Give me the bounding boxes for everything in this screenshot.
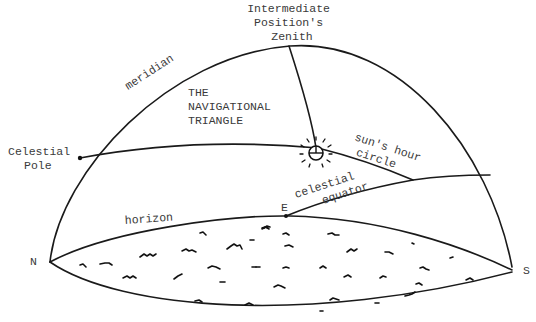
zenith-label: Intermediate Position's Zenith [247,2,337,43]
meridian-label: meridian [123,52,176,93]
celestial-pole-point [78,156,82,160]
sun-icon [300,137,332,167]
polar-distance-arc [80,144,318,158]
horizon-label: horizon [124,211,173,227]
celestial-dome-outline [50,46,512,267]
celestial-equator-label: celestial equator [293,166,370,214]
triangle-title: THE NAVIGATIONAL TRIANGLE [188,86,278,127]
suns-hour-circle-label: sun's hour circle [349,130,430,179]
horizon-surface-texture [80,226,473,311]
east-label: E [281,201,288,214]
zenith-distance-line [289,46,316,148]
south-label: S [523,264,530,277]
navigational-triangle-diagram: Intermediate Position's Zenith meridian … [0,0,536,322]
horizon-back-edge [50,216,512,270]
celestial-pole-label: Celestial Pole [8,145,77,172]
horizon-front-edge [50,262,512,305]
north-label: N [30,255,37,268]
east-point [284,214,288,218]
